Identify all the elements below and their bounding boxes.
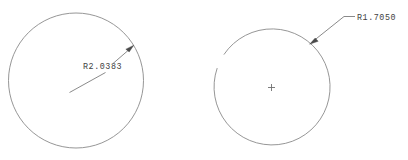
left-figure-group: R2.0383 xyxy=(9,13,144,148)
leader-tail-segment xyxy=(70,73,106,93)
leader-arrowhead xyxy=(310,38,319,44)
circle-outline[interactable] xyxy=(9,13,144,148)
cad-drawing-canvas: R2.0383 R1.7050 xyxy=(0,0,408,160)
radius-dimension-text-left[interactable]: R2.0383 xyxy=(83,62,122,72)
drawing-svg: R2.0383 R1.7050 xyxy=(0,0,408,160)
center-mark-icon xyxy=(268,84,275,91)
arc-outline[interactable] xyxy=(214,29,330,145)
leader-diagonal-segment xyxy=(312,17,345,43)
right-figure-group: R1.7050 xyxy=(214,13,396,145)
radius-dimension-text-right[interactable]: R1.7050 xyxy=(357,13,396,23)
